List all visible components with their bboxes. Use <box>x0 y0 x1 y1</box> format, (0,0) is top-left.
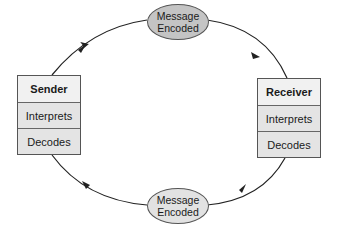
top-node-line2: Encoded <box>157 22 198 34</box>
bottom-node-line2: Encoded <box>157 206 198 218</box>
bottom-node-line1: Message <box>157 194 200 206</box>
sender-box: Sender Interprets Decodes <box>17 75 81 155</box>
sender-title: Sender <box>18 76 80 102</box>
arrow-top-to-receiver <box>207 20 287 78</box>
receiver-box: Receiver Interprets Decodes <box>257 78 321 158</box>
receiver-decodes: Decodes <box>258 131 320 157</box>
receiver-title: Receiver <box>258 79 320 105</box>
arrowhead-icons <box>78 44 260 193</box>
sender-interprets: Interprets <box>18 102 80 128</box>
message-encoded-bottom-node: Message Encoded <box>147 188 209 224</box>
message-encoded-top-node: Message Encoded <box>147 4 209 40</box>
receiver-interprets: Interprets <box>258 105 320 131</box>
arrow-bottom-to-sender <box>52 155 147 205</box>
arrow-receiver-to-bottom <box>207 158 285 205</box>
top-node-line1: Message <box>157 10 200 22</box>
arrow-sender-to-top <box>52 20 147 75</box>
sender-decodes: Decodes <box>18 128 80 154</box>
